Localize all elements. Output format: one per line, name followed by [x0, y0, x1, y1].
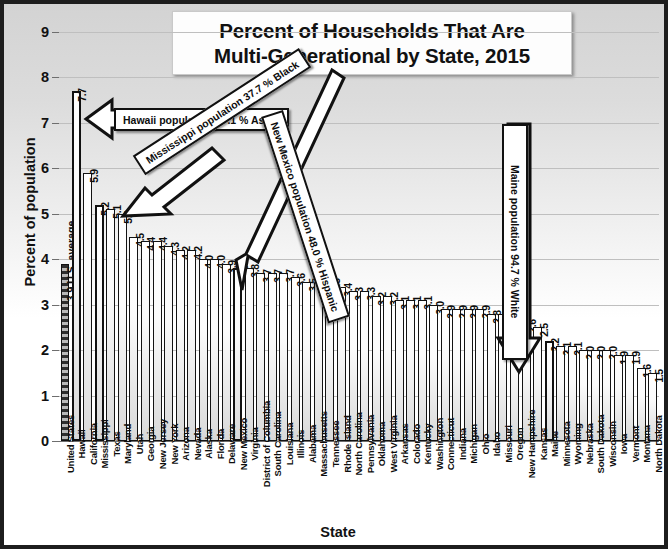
bar-column: 3.1: [405, 32, 417, 441]
bar-column: 1.9: [624, 32, 636, 441]
x-axis-label-slot: Oregon: [509, 444, 521, 522]
y-axis-tick-mark: [52, 77, 59, 78]
x-axis-label-slot: California: [82, 444, 94, 522]
bar-new-jersey: 4.4: [153, 241, 162, 441]
bar-column: 3.2: [370, 32, 382, 441]
bar-column: 3.3: [359, 32, 371, 441]
bar-column: 3.2: [382, 32, 394, 441]
bar-column: 4.2: [186, 32, 198, 441]
x-axis-label-slot: Massachusetts: [313, 444, 325, 522]
x-axis-label-slot: Kentucky: [416, 444, 428, 522]
bar-idaho: 2.8: [487, 314, 496, 441]
bar-column: 1.9: [613, 32, 625, 441]
bar-column: 2.0: [578, 32, 590, 441]
x-axis-label-slot: Montana: [636, 444, 648, 522]
x-axis-label-slot: Michigan: [463, 444, 475, 522]
bar-column: 2.1: [555, 32, 567, 441]
x-axis-label-slot: Maine: [543, 444, 555, 522]
x-axis-ticks: United StatesHawaiiCaliforniaMississippi…: [59, 444, 659, 522]
bar-maryland: 5.0: [118, 214, 127, 441]
bar-kentucky: 3.1: [418, 300, 427, 441]
x-axis-label-slot: Tennessee: [324, 444, 336, 522]
x-axis-label-slot: Washington: [428, 444, 440, 522]
x-axis-label-slot: Rhode Island: [336, 444, 348, 522]
y-axis-tick-label: 6: [41, 160, 49, 176]
x-axis-label-slot: United States: [59, 444, 71, 522]
bar-maine: 2.2: [545, 341, 554, 441]
x-axis-label-slot: Oklahoma: [370, 444, 382, 522]
y-axis-tick-label: 4: [41, 251, 49, 267]
bar-column: 1.5: [647, 32, 659, 441]
bar-column: 5.0: [117, 32, 129, 441]
x-axis-label-slot: Wyoming: [566, 444, 578, 522]
x-axis-label-slot: North Dakota: [647, 444, 659, 522]
bar-column: 4.4: [151, 32, 163, 441]
x-axis-label-slot: Louisiana: [278, 444, 290, 522]
x-axis-label-slot: Colorado: [405, 444, 417, 522]
x-axis-label-slot: Florida: [209, 444, 221, 522]
bar-column: 2.0: [589, 32, 601, 441]
x-axis-label-slot: West Virginia: [382, 444, 394, 522]
x-axis-label-slot: Nebraska: [578, 444, 590, 522]
bar-new-york: 4.3: [164, 246, 173, 441]
x-axis-label-slot: New Hampshire: [520, 444, 532, 522]
bar-column: 2.9: [463, 32, 475, 441]
x-axis-label-slot: Indiana: [451, 444, 463, 522]
x-axis-label-slot: Georgia: [140, 444, 152, 522]
y-axis-tick-label: 5: [41, 206, 49, 222]
x-axis-label-slot: Maryland: [117, 444, 129, 522]
bar-column: 1.6: [636, 32, 648, 441]
bar-column: 3.1: [416, 32, 428, 441]
bar-column: 4.4: [140, 32, 152, 441]
bar-nevada: 4.2: [187, 250, 196, 441]
y-axis-ticks: 0123456789: [4, 32, 59, 441]
bar-illinois: 3.6: [291, 277, 300, 441]
bar-arizona: 4.2: [176, 250, 185, 441]
x-axis-label-slot: Pennsylvania: [359, 444, 371, 522]
y-axis-tick-label: 8: [41, 69, 49, 85]
bar-column: 4.3: [163, 32, 175, 441]
x-axis-label-slot: Mississippi: [94, 444, 106, 522]
bar-column: 2.2: [543, 32, 555, 441]
x-axis-label-slot: Alaska: [197, 444, 209, 522]
x-axis-label-slot: Illinois: [290, 444, 302, 522]
x-axis-label-slot: Arkansas: [393, 444, 405, 522]
bar-texas: 5.1: [106, 209, 115, 441]
x-axis-label-slot: Iowa: [613, 444, 625, 522]
bar-column: 5.1: [105, 32, 117, 441]
y-axis-tick-label: 2: [41, 342, 49, 358]
bar-column: 4.0: [209, 32, 221, 441]
bar-column: 4.5: [128, 32, 140, 441]
bar-column: 2.0: [601, 32, 613, 441]
bar-value-label: 1.5: [653, 369, 665, 383]
bar-column: 2.9: [451, 32, 463, 441]
annotation-maine: Maine population 94.7 % White: [502, 124, 528, 360]
y-axis-tick-label: 1: [41, 388, 49, 404]
y-axis-tick-mark: [52, 214, 59, 215]
bar-michigan: 2.9: [464, 309, 473, 441]
x-axis-label-slot: South Dakota: [589, 444, 601, 522]
x-axis-label-slot: Connecticut: [440, 444, 452, 522]
bar-georgia: 4.4: [141, 241, 150, 441]
x-axis-tick-label: North Dakota: [653, 415, 664, 472]
x-axis-label-slot: North Carolina: [347, 444, 359, 522]
y-axis-tick-label: 3: [41, 297, 49, 313]
x-axis-label-slot: New Jersey: [151, 444, 163, 522]
x-axis-label-slot: New Mexico: [232, 444, 244, 522]
bar-colorado: 3.1: [406, 300, 415, 441]
bar-column: 2.1: [566, 32, 578, 441]
y-axis-tick-mark: [52, 305, 59, 306]
x-axis-label-slot: Hawaii: [71, 444, 83, 522]
y-axis-tick-mark: [52, 350, 59, 351]
bar-column: 5.9: [82, 32, 94, 441]
bar-alabama: 3.5: [302, 282, 311, 441]
bar-florida: 4.0: [210, 259, 219, 441]
x-axis-label-slot: Missouri: [497, 444, 509, 522]
x-axis-label-slot: Arizona: [174, 444, 186, 522]
y-axis-tick-label: 0: [41, 433, 49, 449]
bar-column: 5.2: [94, 32, 106, 441]
x-axis-label-slot: Wisconsin: [601, 444, 613, 522]
y-axis-tick-mark: [52, 441, 59, 442]
y-axis-tick-label: 9: [41, 24, 49, 40]
x-axis-label-slot: Nevada: [186, 444, 198, 522]
